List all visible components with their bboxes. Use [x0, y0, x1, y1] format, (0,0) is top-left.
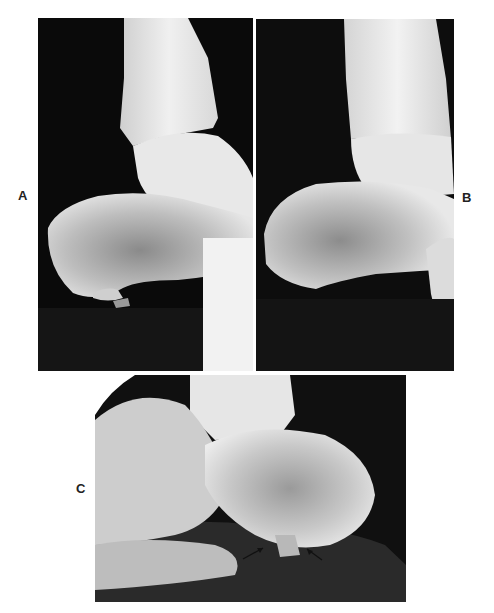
xray-panel-b	[256, 19, 454, 371]
panel-label-a: A	[18, 188, 27, 203]
arrow-icon	[95, 375, 406, 602]
panel-label-b: B	[462, 190, 471, 205]
panel-label-c: C	[76, 481, 85, 496]
xray-panel-c	[95, 375, 406, 602]
xray-panel-a	[38, 18, 253, 371]
